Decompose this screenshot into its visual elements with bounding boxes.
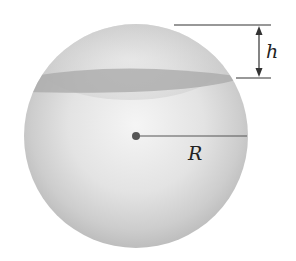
radius-label: R — [187, 142, 202, 164]
center-dot — [132, 132, 140, 140]
sphere-diagram: h R — [0, 0, 296, 261]
height-label: h — [266, 40, 278, 62]
height-dimension-arrow — [256, 26, 263, 77]
